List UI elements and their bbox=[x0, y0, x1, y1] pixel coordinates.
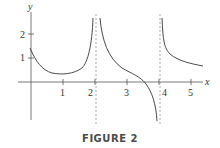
x-tick-label-4: 4 bbox=[162, 87, 167, 98]
figure-caption: FIGURE 2 bbox=[0, 133, 220, 144]
y-axis-label: y bbox=[27, 1, 33, 12]
x-tick-label-3: 3 bbox=[124, 87, 129, 98]
x-tick-label-5: 5 bbox=[188, 87, 193, 98]
curve-branch-2 bbox=[100, 18, 157, 121]
curve-branch-1 bbox=[30, 18, 93, 74]
figure: 1 2 3 4 5 2 1 x y FIGURE 2 bbox=[0, 0, 220, 148]
y-tick-label-1: 1 bbox=[20, 52, 25, 63]
y-tick-label-2: 2 bbox=[20, 29, 25, 40]
x-axis-label: x bbox=[204, 76, 210, 87]
function-plot: 1 2 3 4 5 2 1 x y bbox=[0, 0, 220, 148]
x-tick-label-1: 1 bbox=[60, 87, 65, 98]
x-tick-label-2: 2 bbox=[88, 87, 93, 98]
curve-branch-3 bbox=[162, 18, 203, 66]
